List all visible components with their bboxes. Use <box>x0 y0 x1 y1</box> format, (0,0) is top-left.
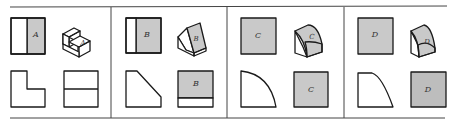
side-view-a <box>11 71 45 107</box>
face-label: D <box>424 85 432 94</box>
face-label: C <box>255 31 261 40</box>
panel-b: B B B <box>126 18 213 107</box>
face-label: D <box>371 30 379 39</box>
isometric-view-b: B <box>178 23 206 56</box>
face-plain <box>11 18 27 54</box>
top-view-b: B <box>178 71 213 107</box>
panel-a: A A <box>11 18 98 107</box>
side-view-c <box>241 71 276 107</box>
top-view-a <box>64 71 98 107</box>
isometric-view-d: D <box>411 25 435 57</box>
top-view-d: D <box>411 72 446 107</box>
front-view-d: D <box>358 18 393 54</box>
face-label: C <box>309 33 315 41</box>
front-view-a: A <box>11 18 45 54</box>
face-label: A <box>32 30 39 39</box>
face-label: D <box>423 38 430 46</box>
face-label: B <box>143 30 150 39</box>
top-view-c: C <box>294 72 328 107</box>
isometric-view-c: C <box>295 25 322 57</box>
side-view-b <box>126 71 161 107</box>
face-label: C <box>308 85 314 94</box>
isometric-view-a: A <box>63 28 90 57</box>
top-rule <box>10 6 447 7</box>
face-label: A <box>79 39 85 47</box>
panel-d: D D D <box>358 18 446 107</box>
panel-c: C C C <box>241 18 328 107</box>
face-label: B <box>192 35 198 43</box>
views-diagram: A A B <box>0 0 454 124</box>
front-view-c: C <box>241 18 276 54</box>
face-label: B <box>192 79 199 88</box>
front-view-b: B <box>126 18 161 53</box>
side-view-d <box>358 73 393 107</box>
